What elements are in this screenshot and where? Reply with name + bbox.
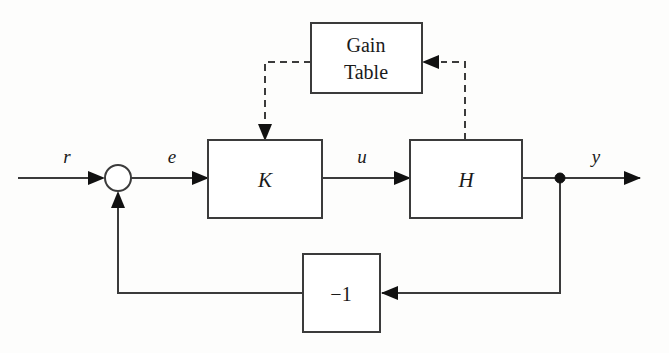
block-diagram-figure: Gain Table K H −1 r e u y (0, 0, 669, 353)
signal-label-reference: r (63, 146, 71, 167)
block-controller-k[interactable]: K (208, 140, 322, 218)
connection-gain-table-to-controller (258, 62, 311, 141)
signal-label-output: y (590, 146, 601, 167)
connection-sum-to-controller (131, 171, 209, 185)
block-plant-h-label: H (457, 168, 475, 192)
connection-plant-to-output (522, 171, 641, 185)
block-gain-table[interactable]: Gain Table (311, 23, 422, 93)
block-plant-h[interactable]: H (410, 140, 522, 218)
connection-controller-to-plant (322, 171, 411, 185)
block-feedback-gain[interactable]: −1 (303, 254, 380, 332)
output-takeoff-node (555, 173, 565, 183)
block-feedback-gain-label: −1 (330, 283, 351, 305)
block-gain-table-label-line1: Gain (347, 34, 386, 56)
signal-label-control: u (357, 146, 367, 167)
connection-plant-to-gain-table (422, 55, 465, 140)
summing-junction[interactable] (105, 165, 131, 191)
connection-reference-to-sum (18, 171, 105, 185)
block-controller-k-label: K (257, 168, 273, 192)
block-gain-table-label-line2: Table (344, 61, 388, 83)
signal-label-error: e (168, 146, 176, 167)
block-diagram-canvas: Gain Table K H −1 r e u y (0, 0, 669, 353)
